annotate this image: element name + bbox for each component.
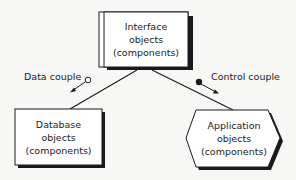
application-line3: (components) [190, 145, 278, 158]
database-line2: objects [15, 131, 102, 144]
database-line3: (components) [15, 144, 102, 157]
interface-line3: (components) [104, 46, 188, 59]
application-node-label: Application objects (components) [190, 119, 278, 158]
module-structure-diagram: Interface objects (components) Database … [0, 0, 296, 180]
data-couple-label: Data couple [24, 71, 81, 82]
control-couple-label: Control couple [211, 71, 280, 82]
interface-node-label: Interface objects (components) [104, 20, 188, 59]
application-line1: Application [190, 119, 278, 132]
database-line1: Database [15, 118, 102, 131]
database-node-label: Database objects (components) [15, 118, 102, 157]
interface-line2: objects [104, 33, 188, 46]
interface-line1: Interface [104, 20, 188, 33]
application-line2: objects [190, 132, 278, 145]
